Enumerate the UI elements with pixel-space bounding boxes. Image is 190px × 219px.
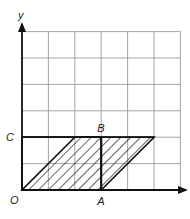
point-label-a: A — [96, 195, 104, 207]
y-axis-label: y — [17, 9, 25, 21]
point-label-b: B — [97, 122, 104, 134]
coordinate-diagram: yOABC — [0, 0, 190, 219]
x-axis-arrowhead — [178, 186, 188, 194]
point-label-o: O — [10, 194, 19, 206]
y-axis-arrowhead — [18, 22, 26, 32]
point-label-c: C — [6, 131, 14, 143]
